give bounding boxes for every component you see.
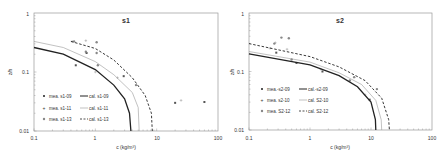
y-tick-label: 0.1 [237, 69, 244, 75]
circle-marker-icon [261, 110, 263, 112]
circle-marker [97, 64, 99, 66]
figure: s1 1 0.1 0.01 0.1 1 10 100 c (kg/m³) z/h… [0, 0, 446, 158]
y-tick-label: 0.1 [22, 69, 29, 75]
circle-marker [95, 52, 97, 54]
square-marker [174, 102, 176, 104]
x-axis-label: c (kg/m³) [116, 144, 136, 150]
x-tick-label: 1 [309, 135, 312, 141]
legend-label: cal. s1-13 [89, 117, 109, 122]
circle-marker [273, 42, 275, 44]
x-tick-label: 0.1 [31, 135, 38, 141]
plus-marker-icon: + [261, 97, 264, 103]
legend-label: mea. s2-10 [267, 98, 290, 103]
y-axis-label: z/h [7, 68, 13, 75]
circle-marker-icon [43, 118, 45, 120]
circle-marker [95, 41, 97, 43]
circle-marker [288, 37, 290, 39]
square-marker [275, 52, 277, 54]
legend-label: mea. s1-11 [49, 106, 72, 111]
plot-area [34, 13, 218, 131]
y-tick-label: 0.01 [234, 127, 244, 133]
x-tick-label: 10 [154, 135, 160, 141]
legend-label: mea. s1-09 [49, 94, 72, 99]
square-marker-icon [261, 88, 263, 90]
circle-marker [280, 36, 282, 38]
x-axis-label: c (kg/m³) [330, 144, 350, 150]
x-tick-label: 1 [94, 135, 97, 141]
circle-marker [135, 84, 137, 86]
y-axis-label: z/h [229, 68, 235, 75]
legend-label: cal. S2-10 [308, 98, 329, 103]
legend-label: mea. s1-13 [49, 117, 72, 122]
y-tick-label: 0.01 [19, 128, 29, 134]
legend-label: cal. s1-11 [89, 106, 109, 111]
legend-label: cal. S2-12 [308, 109, 329, 114]
chart-s2: s2 1 0.1 0.01 0.1 1 10 100 c (kg/m³) z/h… [229, 11, 436, 150]
chart-s1: s1 1 0.1 0.01 0.1 1 10 100 c (kg/m³) z/h… [7, 11, 222, 150]
square-marker [321, 71, 323, 73]
y-tick-label: 1 [241, 11, 244, 17]
square-marker [123, 75, 125, 77]
y-tick-label: 1 [26, 11, 29, 17]
x-tick-label: 10 [368, 135, 374, 141]
chart-canvas: s1 1 0.1 0.01 0.1 1 10 100 c (kg/m³) z/h… [0, 0, 446, 158]
legend-label: mea.-s2-09 [267, 87, 290, 92]
legend-label: cal.-s2-09 [308, 87, 328, 92]
square-marker [75, 64, 77, 66]
legend-label: mea. S2-12 [267, 109, 291, 114]
circle-marker [376, 88, 378, 90]
plus-marker-icon: + [43, 105, 46, 111]
circle-marker [85, 51, 87, 53]
x-tick-label: 100 [214, 135, 223, 141]
square-marker-icon [43, 95, 45, 97]
circle-marker [353, 76, 355, 78]
x-tick-label: 0.1 [246, 135, 253, 141]
x-tick-label: 100 [428, 135, 437, 141]
square-marker [203, 101, 205, 103]
chart-title: s2 [336, 17, 344, 24]
legend-label: cal. s1-09 [89, 94, 109, 99]
chart-title: s1 [122, 17, 130, 24]
